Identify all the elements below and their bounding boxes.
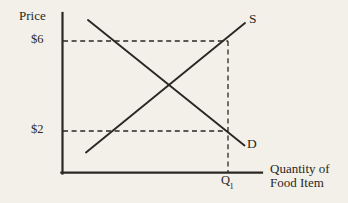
- supply-curve: [86, 23, 245, 153]
- x-tick-label-q1-subscript: 1: [230, 181, 234, 191]
- demand-curve-label: D: [247, 137, 257, 152]
- price-axis-label: Price: [19, 9, 46, 23]
- quantity-axis-label: Quantity ofFood Item: [270, 162, 330, 190]
- quantity-axis-label-line2: Food Item: [270, 176, 330, 190]
- x-tick-label-q1-base: Q: [221, 173, 230, 187]
- quantity-axis-label-line1: Quantity of: [270, 161, 330, 176]
- supply-demand-figure: Price $6 $2 S D Q1 Quantity ofFood Item: [0, 0, 348, 203]
- y-tick-label-2: $2: [31, 123, 44, 137]
- supply-curve-label: S: [249, 12, 257, 27]
- x-tick-label-q1: Q1: [221, 174, 234, 190]
- y-tick-label-6: $6: [31, 33, 44, 47]
- demand-curve: [88, 20, 245, 146]
